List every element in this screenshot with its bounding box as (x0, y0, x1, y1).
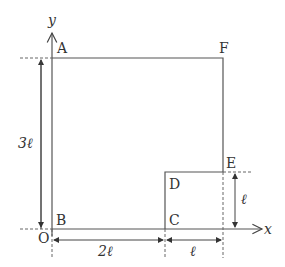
dim-l-bottom-label: ℓ (190, 243, 196, 259)
dim-3l-label: 3ℓ (18, 135, 33, 151)
point-b-label: B (56, 212, 66, 228)
point-c-label: C (169, 212, 180, 228)
shape-outline (52, 58, 223, 229)
origin-label: O (38, 230, 49, 246)
l-shape-diagram: y x O A F B C D E 3ℓ 2ℓ ℓ ℓ (0, 0, 285, 267)
point-d-label: D (169, 176, 180, 192)
point-f-label: F (219, 40, 229, 56)
dim-l-right-label: ℓ (241, 191, 247, 207)
x-axis-label: x (264, 221, 272, 237)
dim-2l-label: 2ℓ (97, 243, 113, 259)
point-e-label: E (226, 155, 236, 171)
y-axis-label: y (47, 12, 57, 28)
point-a-label: A (56, 40, 68, 56)
